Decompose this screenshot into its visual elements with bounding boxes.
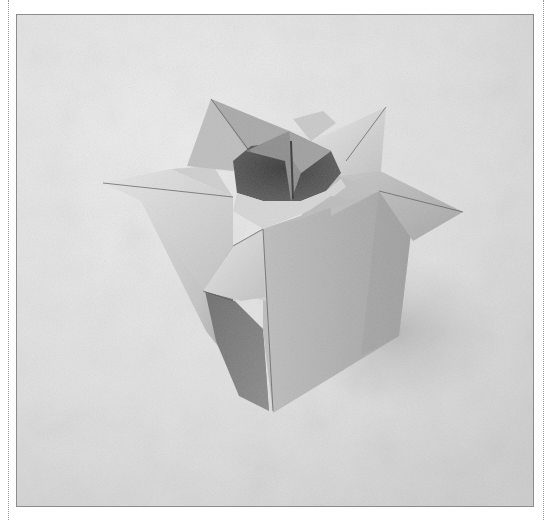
photo-frame [16,14,534,507]
origami-vase-photo [17,15,533,506]
right-dotted-guide [543,0,544,520]
left-dotted-guide [8,0,9,520]
